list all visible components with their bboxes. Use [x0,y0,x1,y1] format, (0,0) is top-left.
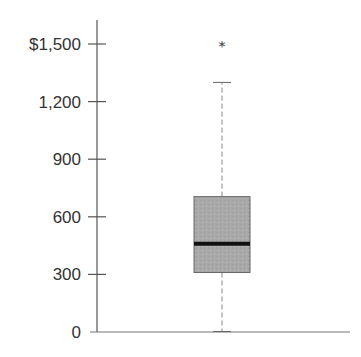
y-tick-label: 900 [53,150,81,169]
y-tick: 900 [53,150,106,169]
y-tick: $1,500 [29,35,106,54]
box-plot-chart: 03006009001,200$1,500 * [0,0,361,357]
iqr-box [194,197,250,273]
y-tick-label: 600 [53,208,81,227]
y-tick: 1,200 [38,93,106,112]
y-tick-label: $1,500 [29,35,81,54]
y-tick-label: 1,200 [38,93,81,112]
y-tick: 300 [53,265,106,284]
box-group: * [194,38,250,332]
y-tick: 600 [53,208,106,227]
y-tick-label: 300 [53,265,81,284]
y-tick: 0 [72,323,81,342]
y-tick-label: 0 [72,323,81,342]
outlier-star-icon: * [219,38,226,54]
box: * [194,38,250,332]
y-axis: 03006009001,200$1,500 [29,20,106,342]
